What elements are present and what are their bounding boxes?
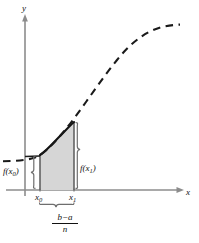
x-axis xyxy=(6,187,184,193)
shaded-strip xyxy=(40,122,74,190)
numerator-a: a xyxy=(68,212,73,222)
strip-width-expression: b−a n xyxy=(43,213,87,235)
fraction-denominator: n xyxy=(43,225,87,234)
fx1-prefix: f(x xyxy=(80,163,90,173)
fx0-label: f(x0) xyxy=(3,167,19,177)
figure-canvas xyxy=(0,0,199,243)
x1-tick-subscript: 1 xyxy=(73,196,76,203)
fx0-suffix: ) xyxy=(16,166,19,176)
fx1-brace xyxy=(76,123,81,189)
fx1-suffix: ) xyxy=(93,163,96,173)
x0-tick-subscript: 0 xyxy=(39,196,42,203)
x1-tick-label: x1 xyxy=(69,193,76,203)
y-axis-label: y xyxy=(22,4,26,13)
fx0-guide xyxy=(25,156,40,157)
fx0-prefix: f(x xyxy=(3,166,13,176)
y-axis xyxy=(22,14,28,196)
fx0-brace xyxy=(31,157,36,189)
dashed-curve xyxy=(3,25,180,162)
x0-tick-label: x0 xyxy=(35,193,42,203)
fraction-numerator: b−a xyxy=(43,213,87,222)
fx1-label: f(x1) xyxy=(80,164,96,174)
x-axis-label: x xyxy=(186,188,190,197)
trapezoid-rule-figure: y x x0 x1 f(x0) f(x1) b−a n xyxy=(0,0,199,243)
